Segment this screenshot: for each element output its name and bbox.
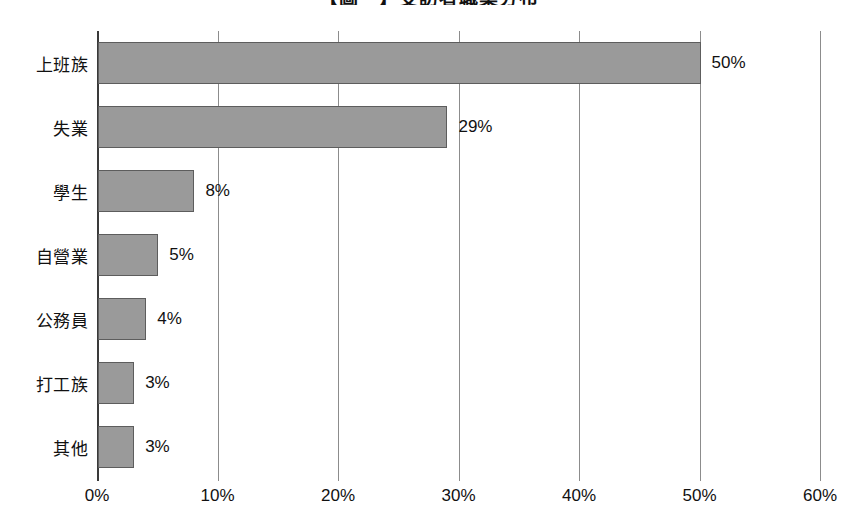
x-tick-label: 10% — [173, 486, 263, 506]
bar-chart: 【圖一】受訪者職業分布 上班族50%失業29%學生8%自營業5%公務員4%打工族… — [0, 0, 857, 529]
bar-value-label: 3% — [145, 426, 170, 468]
x-tick-label: 40% — [534, 486, 624, 506]
bar — [98, 298, 146, 340]
x-axis-tick-labels: 0%10%20%30%40%50%60% — [0, 486, 857, 526]
bar-row: 自營業5% — [0, 223, 857, 287]
bar-value-label: 5% — [169, 234, 194, 276]
bar — [98, 170, 194, 212]
bar-row: 失業29% — [0, 95, 857, 159]
bar — [98, 426, 134, 468]
bar — [98, 234, 158, 276]
category-label: 自營業 — [0, 223, 88, 287]
bar-value-label: 3% — [145, 362, 170, 404]
category-label: 上班族 — [0, 31, 88, 95]
bar-row: 其他3% — [0, 415, 857, 479]
x-tick-label: 50% — [655, 486, 745, 506]
bar-value-label: 4% — [157, 298, 182, 340]
category-label: 公務員 — [0, 287, 88, 351]
x-tick-label: 20% — [293, 486, 383, 506]
category-label: 打工族 — [0, 351, 88, 415]
category-label: 失業 — [0, 95, 88, 159]
bar-row: 打工族3% — [0, 351, 857, 415]
category-label: 學生 — [0, 159, 88, 223]
x-tick-label: 30% — [414, 486, 504, 506]
bar-row: 公務員4% — [0, 287, 857, 351]
bar-value-label: 29% — [458, 106, 492, 148]
bar — [98, 42, 701, 84]
bar-row: 學生8% — [0, 159, 857, 223]
bar-rows: 上班族50%失業29%學生8%自營業5%公務員4%打工族3%其他3% — [0, 31, 857, 481]
bar-row: 上班族50% — [0, 31, 857, 95]
bar — [98, 362, 134, 404]
x-tick-label: 0% — [52, 486, 142, 506]
chart-title: 【圖一】受訪者職業分布 — [0, 0, 857, 5]
bar — [98, 106, 447, 148]
category-label: 其他 — [0, 415, 88, 479]
x-tick-label: 60% — [775, 486, 857, 506]
bar-value-label: 50% — [712, 42, 746, 84]
bar-value-label: 8% — [205, 170, 230, 212]
